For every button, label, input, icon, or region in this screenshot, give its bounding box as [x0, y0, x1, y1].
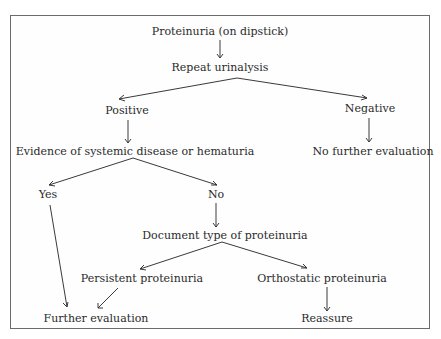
edge-orthostatic-to-reassure: [324, 287, 330, 311]
edge-positive-to-evidence: [125, 120, 131, 143]
edge-persistent-to-further: [98, 288, 118, 308]
node-negative: Negative: [345, 102, 395, 115]
edge-yes-to-further: [50, 205, 68, 307]
node-persistent-proteinuria: Persistent proteinuria: [81, 272, 203, 285]
edge-proteinuria-to-repeat: [217, 40, 223, 58]
node-evidence-systemic-disease: Evidence of systemic disease or hematuri…: [16, 145, 255, 158]
node-no-further-evaluation: No further evaluation: [312, 145, 433, 158]
edge-repeat-to-positive: [119, 78, 237, 101]
node-reassure: Reassure: [301, 312, 353, 325]
edge-document-to-orthostatic: [222, 242, 307, 268]
edge-evidence-to-yes: [49, 158, 133, 186]
edge-evidence-to-no: [133, 158, 217, 185]
flowchart-edges: [0, 0, 441, 339]
flowchart-canvas: Proteinuria (on dipstick) Repeat urinaly…: [0, 0, 441, 339]
edge-document-to-persistent: [140, 242, 222, 270]
node-positive: Positive: [105, 104, 148, 117]
edge-no-to-document: [213, 203, 219, 227]
node-document-type: Document type of proteinuria: [142, 229, 307, 242]
edge-negative-to-no-further: [366, 118, 372, 142]
node-proteinuria-dipstick: Proteinuria (on dipstick): [152, 25, 289, 38]
node-further-evaluation: Further evaluation: [44, 312, 149, 325]
node-orthostatic-proteinuria: Orthostatic proteinuria: [257, 272, 387, 285]
node-no: No: [208, 188, 224, 201]
node-repeat-urinalysis: Repeat urinalysis: [172, 61, 269, 74]
node-yes: Yes: [39, 188, 57, 201]
edge-repeat-to-negative: [237, 78, 367, 100]
